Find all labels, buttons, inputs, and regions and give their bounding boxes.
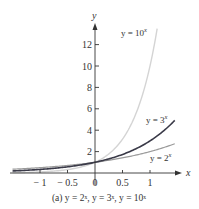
series-label: y = 2x: [150, 151, 172, 163]
x-tick-label: 0.5: [116, 177, 129, 188]
y-tick-label: 10: [82, 61, 92, 72]
y-tick-label: 4: [87, 125, 92, 136]
y-ticks: 24681012: [82, 39, 99, 157]
y-axis-arrow-icon: [93, 23, 98, 30]
y-tick-label: 8: [87, 82, 92, 93]
y-tick-label: 6: [87, 103, 92, 114]
x-tick-label: − 0.5: [57, 177, 78, 188]
x-tick-label: 1: [148, 177, 153, 188]
y-tick-label: 12: [82, 39, 92, 50]
curves: [13, 29, 175, 173]
x-tick-label: − 1: [33, 177, 46, 188]
y-tick-label: 2: [87, 146, 92, 157]
x-axis-label: x: [185, 167, 191, 178]
x-tick-label: 0: [93, 177, 98, 188]
exponential-chart: x y − 1− 0.500.51 24681012 y = 2xy = 3xy…: [0, 0, 199, 209]
curve-base-10: [13, 29, 158, 173]
chart-caption: (a) y = 2ˣ, y = 3ˣ, y = 10ˣ: [52, 193, 146, 204]
y-axis-label: y: [91, 10, 97, 21]
series-label: y = 3x: [146, 113, 168, 125]
x-axis-arrow-icon: [175, 171, 182, 176]
curve-base-3: [13, 120, 175, 171]
series-label: y = 10x: [121, 26, 147, 38]
